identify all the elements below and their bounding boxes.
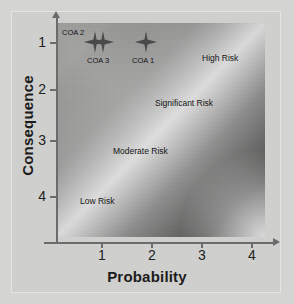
marker-label-coa-2: COA 2 — [62, 28, 84, 37]
y-tick-label-4: 1 — [32, 34, 46, 50]
x-axis-arrow-icon — [273, 238, 280, 246]
zone-label-high-risk: High Risk — [202, 53, 238, 63]
marker-coa-3[interactable] — [92, 31, 114, 53]
zone-label-low-risk: Low Risk — [80, 196, 114, 206]
y-tick-2 — [50, 140, 56, 142]
y-tick-1 — [50, 196, 56, 198]
y-axis-title: Consequence — [19, 51, 36, 201]
zone-label-significant-risk: Significant Risk — [155, 98, 213, 108]
y-axis-arrow-icon — [52, 11, 60, 18]
marker-label-coa-1: COA 1 — [132, 56, 154, 65]
x-axis-line — [44, 242, 275, 244]
x-tick-label-4: 4 — [244, 247, 260, 263]
zone-label-moderate-risk: Moderate Risk — [113, 146, 168, 156]
x-axis-title: Probability — [0, 268, 294, 285]
marker-label-coa-3: COA 3 — [87, 56, 109, 65]
x-tick-label-2: 2 — [144, 247, 160, 263]
y-tick-3 — [50, 89, 56, 91]
marker-coa-1[interactable] — [135, 31, 157, 53]
risk-matrix-figure: High Risk Significant Risk Moderate Risk… — [0, 0, 294, 304]
y-axis-line — [56, 16, 58, 244]
y-tick-4 — [50, 42, 56, 44]
x-tick-label-1: 1 — [94, 247, 110, 263]
x-tick-label-3: 3 — [194, 247, 210, 263]
